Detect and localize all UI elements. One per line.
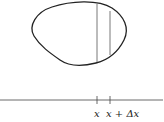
- tick-label-x: x: [94, 108, 100, 119]
- closed-region-outline: [32, 2, 126, 65]
- tick-label-x-plus-dx: x + Δx: [106, 108, 140, 119]
- diagram-canvas: x x + Δx: [0, 0, 164, 122]
